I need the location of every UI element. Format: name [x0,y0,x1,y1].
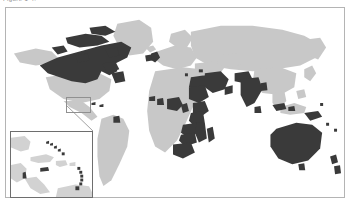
caribbean-locator-box [66,97,91,113]
figure-caption-text: Figure 1-4. [3,0,123,3]
caribbean-inset-svg [11,132,92,197]
caribbean-inset-map [10,131,93,198]
figure-caption: Figure 1-4. [3,0,123,3]
map-figure: Figure 1-4. [0,0,350,203]
